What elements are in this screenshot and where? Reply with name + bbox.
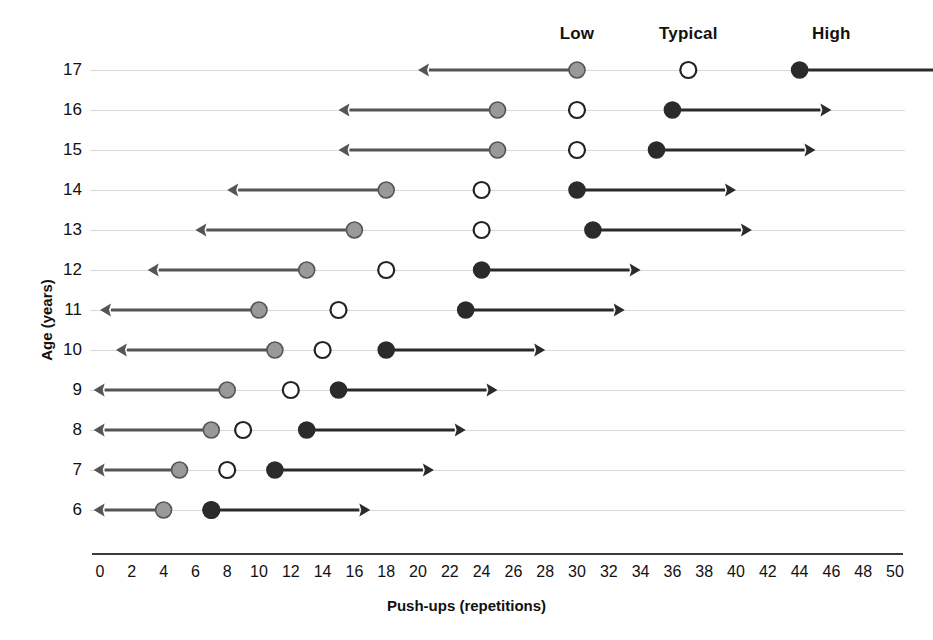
gridline-row bbox=[90, 510, 905, 511]
gridline-row bbox=[90, 310, 905, 311]
x-tick-label: 46 bbox=[822, 563, 840, 581]
x-tick-label: 38 bbox=[695, 563, 713, 581]
x-tick-label: 2 bbox=[127, 563, 136, 581]
pushups-age-chart: LowTypicalHigh 17161514131211109876 Age … bbox=[0, 0, 933, 640]
gridline-row bbox=[90, 150, 905, 151]
x-tick-label: 8 bbox=[223, 563, 232, 581]
x-tick-label: 34 bbox=[632, 563, 650, 581]
x-tick-label: 12 bbox=[282, 563, 300, 581]
x-tick-label: 4 bbox=[159, 563, 168, 581]
x-tick-label: 14 bbox=[314, 563, 332, 581]
gridline-row bbox=[90, 470, 905, 471]
gridline-row bbox=[90, 350, 905, 351]
x-tick-label: 10 bbox=[250, 563, 268, 581]
x-tick-label: 20 bbox=[409, 563, 427, 581]
x-tick-label: 36 bbox=[663, 563, 681, 581]
y-tick-label: 9 bbox=[42, 380, 82, 400]
x-tick-label: 42 bbox=[759, 563, 777, 581]
gridline-row bbox=[90, 270, 905, 271]
y-tick-label: 17 bbox=[42, 60, 82, 80]
y-tick-label: 8 bbox=[42, 420, 82, 440]
x-tick-label: 0 bbox=[96, 563, 105, 581]
y-tick-label: 14 bbox=[42, 180, 82, 200]
plot-area: 17161514131211109876 bbox=[0, 0, 933, 640]
y-tick-label: 13 bbox=[42, 220, 82, 240]
data-marker-layer bbox=[0, 0, 933, 640]
gridline-row bbox=[90, 110, 905, 111]
x-tick-label: 24 bbox=[473, 563, 491, 581]
x-tick-label: 6 bbox=[191, 563, 200, 581]
x-axis-title: Push-ups (repetitions) bbox=[0, 597, 933, 614]
x-tick-label: 26 bbox=[504, 563, 522, 581]
gridline-row bbox=[90, 230, 905, 231]
gridline-row bbox=[90, 430, 905, 431]
y-tick-label: 16 bbox=[42, 100, 82, 120]
y-tick-label: 15 bbox=[42, 140, 82, 160]
x-tick-label: 16 bbox=[345, 563, 363, 581]
x-axis-line bbox=[92, 553, 903, 555]
y-axis-title: Age (years) bbox=[38, 279, 55, 361]
gridline-row bbox=[90, 190, 905, 191]
x-tick-label: 18 bbox=[377, 563, 395, 581]
y-tick-label: 7 bbox=[42, 460, 82, 480]
gridline-row bbox=[90, 390, 905, 391]
x-tick-label: 22 bbox=[441, 563, 459, 581]
x-tick-label: 50 bbox=[886, 563, 904, 581]
x-tick-label: 28 bbox=[536, 563, 554, 581]
x-tick-label: 32 bbox=[600, 563, 618, 581]
y-tick-label: 12 bbox=[42, 260, 82, 280]
y-tick-label: 6 bbox=[42, 500, 82, 520]
x-tick-label: 44 bbox=[791, 563, 809, 581]
gridline-row bbox=[90, 70, 905, 71]
x-tick-label: 30 bbox=[568, 563, 586, 581]
x-tick-label: 48 bbox=[854, 563, 872, 581]
x-tick-label: 40 bbox=[727, 563, 745, 581]
